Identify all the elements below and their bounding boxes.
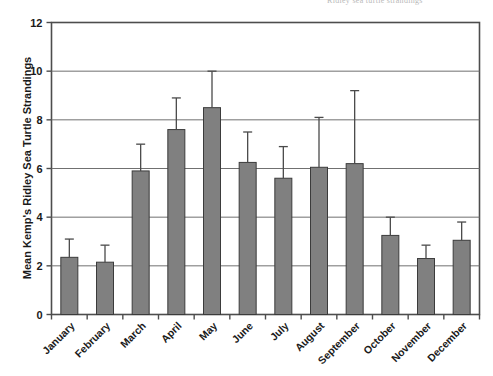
bar: [239, 162, 256, 314]
bar: [61, 257, 78, 314]
bar: [132, 171, 149, 315]
bar-chart: 024681012 JanuaryFebruaryMarchAprilMayJu…: [0, 0, 493, 376]
y-tick-label: 6: [36, 163, 42, 175]
x-axis-labels: JanuaryFebruaryMarchAprilMayJuneJulyAugu…: [40, 319, 469, 366]
y-axis-title: Mean Kemp's Ridley Sea Turtle Strandings: [21, 57, 33, 279]
y-tick-label: 12: [30, 17, 42, 29]
x-tick-label: March: [118, 319, 148, 349]
error-bars: [65, 71, 466, 262]
y-tick-label: 0: [36, 309, 42, 321]
x-tick-label: April: [158, 319, 183, 344]
x-tick-label: June: [229, 319, 255, 345]
bar: [382, 235, 399, 314]
bar: [346, 164, 363, 315]
bar-series: [61, 108, 470, 315]
x-tick-label: February: [72, 319, 112, 359]
bar: [168, 130, 185, 315]
y-tick-label: 8: [36, 114, 42, 126]
bar: [418, 259, 435, 315]
y-tick-label: 4: [36, 211, 43, 223]
bar: [453, 240, 470, 314]
bar: [275, 178, 292, 314]
gridlines: [52, 71, 480, 266]
x-tick-label: July: [267, 319, 290, 342]
x-tick-label: May: [196, 319, 219, 342]
y-axis: 024681012: [30, 17, 51, 321]
bar: [311, 167, 328, 314]
y-tick-label: 2: [36, 260, 42, 272]
bar: [97, 262, 114, 314]
x-tick-label: August: [292, 319, 326, 353]
chart-figure: Ridley sea turtle strandings 024681012 J…: [0, 0, 493, 376]
bar: [204, 108, 221, 315]
